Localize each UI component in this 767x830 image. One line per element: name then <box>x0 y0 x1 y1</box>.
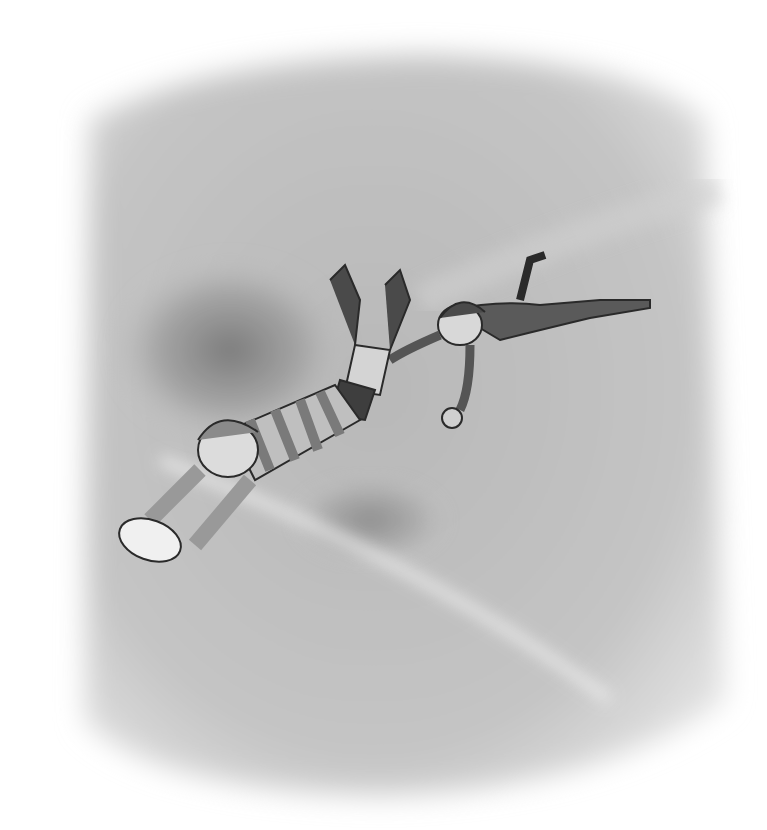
field-background <box>85 55 725 795</box>
rugby-illustration <box>0 0 767 830</box>
